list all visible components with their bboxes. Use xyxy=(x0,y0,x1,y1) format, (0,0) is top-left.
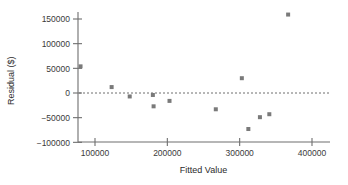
data-point xyxy=(240,76,244,80)
data-point xyxy=(214,107,218,111)
residual-scatter-chart: −100000−50000050000100000150000100000200… xyxy=(0,0,348,185)
x-axis-title: Fitted Value xyxy=(180,165,227,175)
x-axis-tick-label: 400000 xyxy=(298,148,327,158)
data-point xyxy=(151,93,155,97)
data-point xyxy=(152,104,156,108)
data-point xyxy=(110,85,114,89)
plot-area: −100000−50000050000100000150000100000200… xyxy=(0,0,348,185)
y-axis-tick-label: 100000 xyxy=(42,39,71,49)
data-points-group xyxy=(79,13,291,131)
y-axis-tick-label: 50000 xyxy=(46,64,70,74)
data-point xyxy=(79,64,83,68)
data-point xyxy=(128,94,132,98)
y-axis-tick-label: 0 xyxy=(65,88,70,98)
data-point xyxy=(246,127,250,131)
x-axis-tick-label: 300000 xyxy=(225,148,254,158)
data-point xyxy=(267,112,271,116)
data-point xyxy=(286,13,290,17)
y-axis-tick-label: 150000 xyxy=(42,14,71,24)
x-axis-tick-label: 200000 xyxy=(153,148,182,158)
x-axis-tick-label: 100000 xyxy=(81,148,110,158)
axes-group xyxy=(73,12,330,146)
y-axis-tick-label: −50000 xyxy=(41,113,70,123)
y-axis-tick-label: −100000 xyxy=(37,138,71,148)
data-point xyxy=(168,99,172,103)
data-point xyxy=(258,115,262,119)
y-axis-title: Residual ($) xyxy=(6,56,16,105)
axis-labels-group: −100000−50000050000100000150000100000200… xyxy=(6,14,326,175)
